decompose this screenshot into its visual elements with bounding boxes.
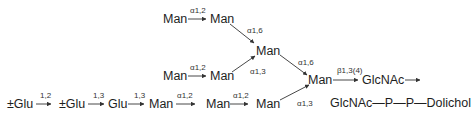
linkage-label: α1,2	[190, 6, 206, 15]
linkage-label: α1,6	[247, 26, 263, 35]
mannose-bottom-2: Man	[206, 97, 230, 111]
linkage-label: α1,3	[297, 99, 313, 108]
glucose-2: ±Glu	[59, 97, 85, 111]
linkage-label: α1,3	[250, 67, 266, 76]
linkage-label: 1,2	[40, 91, 51, 100]
linkage-label: α1,6	[298, 58, 314, 67]
mannose-bottom-3: Man	[256, 97, 280, 111]
linkage-label: 1,3	[134, 91, 145, 100]
linkage-label: α1,2	[177, 91, 193, 100]
mannose-bottom-1: Man	[149, 97, 173, 111]
linkage-label: 1,3	[93, 91, 104, 100]
mannose-top-1: Man	[163, 12, 187, 26]
glcnac-1: GlcNAc	[362, 73, 404, 87]
glcnac-pp-dolichol: GlcNAc—P—P—Dolichol	[330, 96, 471, 110]
linkage-label: α1,2	[190, 63, 206, 72]
glucose-3: Glu	[108, 97, 127, 111]
mannose-top-2: Man	[210, 12, 234, 26]
mannose-row2-1: Man	[163, 69, 187, 83]
glucose-1: ±Glu	[7, 97, 33, 111]
mannose-branch: Man	[308, 73, 332, 87]
linkage-label: β1,3(4)	[337, 66, 363, 75]
mannose-middle: Man	[256, 44, 280, 58]
mannose-row2-2: Man	[210, 69, 234, 83]
linkage-label: α1,2	[233, 91, 249, 100]
